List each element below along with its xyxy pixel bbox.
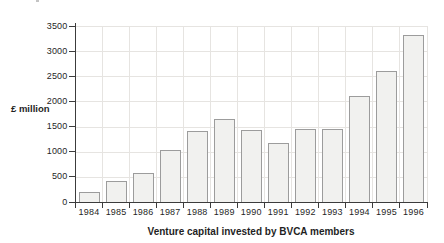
x-axis-tick-label: 1990 <box>238 208 265 217</box>
x-axis-line <box>75 202 429 203</box>
x-axis-tick-label: 1992 <box>292 208 319 217</box>
v-gridline <box>210 26 211 202</box>
y-tick <box>69 176 75 177</box>
bar-1988 <box>187 131 208 202</box>
x-axis-tick-label: 1996 <box>400 208 427 217</box>
x-axis-tick-label: 1985 <box>103 208 130 217</box>
v-gridline <box>183 26 184 202</box>
x-axis-tick-label: 1995 <box>373 208 400 217</box>
x-axis-tick-label: 1989 <box>211 208 238 217</box>
y-axis-tick-label: 2000 <box>27 97 68 106</box>
y-tick <box>69 202 75 203</box>
chart-figure: £ million 050010001500200025003000350019… <box>0 0 444 243</box>
bar-1995 <box>376 71 397 202</box>
y-tick <box>69 101 75 102</box>
y-axis-tick-label: 3000 <box>27 47 68 56</box>
bar-1989 <box>214 119 235 202</box>
v-gridline <box>291 26 292 202</box>
bar-1984 <box>79 192 100 202</box>
v-gridline <box>129 26 130 202</box>
x-axis-tick-label: 1994 <box>346 208 373 217</box>
bar-1987 <box>160 150 181 202</box>
v-gridline <box>102 26 103 202</box>
y-tick <box>69 126 75 127</box>
v-gridline <box>264 26 265 202</box>
y-axis-tick-label: 2500 <box>27 72 68 81</box>
bar-1986 <box>133 173 154 202</box>
v-gridline <box>318 26 319 202</box>
y-axis-tick-label: 500 <box>27 172 68 181</box>
x-axis-tick-label: 1986 <box>130 208 157 217</box>
y-axis-tick-label: 1500 <box>27 122 68 131</box>
y-tick <box>69 51 75 52</box>
v-gridline <box>372 26 373 202</box>
x-axis-tick-label: 1987 <box>157 208 184 217</box>
plot-area: 0500100015002000250030003500198419851986… <box>76 26 428 202</box>
y-tick <box>69 151 75 152</box>
bar-1994 <box>349 96 370 202</box>
v-gridline <box>399 26 400 202</box>
y-axis-tick-label: 1000 <box>27 147 68 156</box>
y-tick <box>69 76 75 77</box>
bar-1991 <box>268 143 289 202</box>
bar-1992 <box>295 129 316 202</box>
v-gridline <box>345 26 346 202</box>
bar-1990 <box>241 130 262 202</box>
y-axis-tick-label: 3500 <box>27 22 68 31</box>
y-tick <box>69 26 75 27</box>
y-axis-tick-label: 0 <box>27 198 68 207</box>
x-axis-tick-label: 1988 <box>184 208 211 217</box>
bar-1993 <box>322 129 343 202</box>
chart-caption: Venture capital invested by BVCA members <box>75 226 427 237</box>
bar-1985 <box>106 181 127 202</box>
scan-artifact <box>36 0 39 2</box>
v-gridline <box>237 26 238 202</box>
x-axis-tick-label: 1984 <box>76 208 103 217</box>
v-gridline <box>156 26 157 202</box>
x-axis-tick-label: 1991 <box>265 208 292 217</box>
x-axis-tick-label: 1993 <box>319 208 346 217</box>
v-gridline <box>427 26 428 202</box>
bar-1996 <box>403 35 424 202</box>
